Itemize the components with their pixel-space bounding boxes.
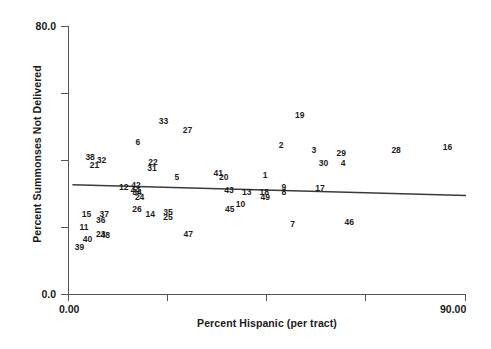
y-axis-tick <box>61 160 68 161</box>
x-axis-tick-label-min: 0.00 <box>59 303 79 315</box>
y-axis-tick <box>61 227 68 228</box>
data-point-label: 7 <box>290 219 295 228</box>
data-point-label: 8 <box>281 188 286 197</box>
x-axis-tick <box>68 294 69 301</box>
data-point-label: 4 <box>341 159 346 168</box>
data-point-label: 48 <box>100 231 109 240</box>
data-point-label: 11 <box>79 223 88 232</box>
data-point-label: 46 <box>345 218 354 227</box>
data-point-label: 40 <box>83 234 92 243</box>
scatter-plot-figure: Percent Summonses Not Delivered Percent … <box>0 0 491 349</box>
data-point-label: 19 <box>295 111 304 120</box>
x-axis-title: Percent Hispanic (per tract) <box>68 317 466 329</box>
x-axis-line <box>68 294 466 295</box>
data-point-label: 30 <box>319 159 328 168</box>
x-axis-tick <box>266 294 267 301</box>
data-point-label: 12 <box>119 183 128 192</box>
data-point-label: 45 <box>225 204 234 213</box>
data-point-label: 26 <box>132 204 141 213</box>
y-axis-tick-label-max: 80.0 <box>0 20 56 32</box>
data-point-label: 31 <box>147 164 156 173</box>
data-point-label: 39 <box>75 243 84 252</box>
data-point-label: 5 <box>174 173 179 182</box>
data-point-label: 28 <box>391 146 400 155</box>
regression-line <box>68 26 466 294</box>
data-point-label: 33 <box>159 117 168 126</box>
x-axis-tick <box>365 294 366 301</box>
x-axis-tick <box>167 294 168 301</box>
data-point-label: 29 <box>337 149 346 158</box>
y-axis-title: Percent Summonses Not Delivered <box>31 44 43 264</box>
data-point-label: 17 <box>315 184 324 193</box>
y-axis-tick-label-min: 0.0 <box>0 288 56 300</box>
data-point-label: 15 <box>82 209 91 218</box>
data-point-label: 3 <box>312 146 317 155</box>
y-axis-tick <box>61 93 68 94</box>
data-point-label: 10 <box>236 199 245 208</box>
x-axis-tick <box>465 294 466 301</box>
data-point-label: 16 <box>443 142 452 151</box>
data-point-label: 49 <box>260 193 269 202</box>
y-axis-tick <box>61 26 68 27</box>
data-point-label: 2 <box>279 141 284 150</box>
data-point-label: 1 <box>263 171 268 180</box>
data-point-label: 25 <box>163 213 172 222</box>
x-axis-tick-label-max: 90.00 <box>440 303 466 315</box>
data-point-label: 21 <box>90 161 99 170</box>
data-point-label: 47 <box>184 229 193 238</box>
data-point-label: 27 <box>183 126 192 135</box>
data-point-label: 14 <box>146 209 155 218</box>
data-point-label: 13 <box>242 188 251 197</box>
data-point-label: 20 <box>219 173 228 182</box>
y-axis-tick <box>61 294 68 295</box>
data-point-label: 43 <box>224 186 233 195</box>
data-point-label: 6 <box>135 137 140 146</box>
plot-area: 1619332728232963832212231304412051171242… <box>68 26 466 294</box>
data-point-label: 36 <box>96 216 105 225</box>
data-point-label: 24 <box>135 193 144 202</box>
